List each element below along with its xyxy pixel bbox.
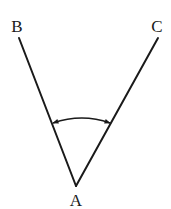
point-label-a: A xyxy=(70,192,82,209)
point-label-b: B xyxy=(11,18,22,35)
ray-ac xyxy=(76,38,158,186)
angle-diagram xyxy=(0,0,171,208)
point-label-c: C xyxy=(151,18,162,35)
ray-ab xyxy=(19,38,76,186)
angle-arc-marker xyxy=(53,118,110,123)
